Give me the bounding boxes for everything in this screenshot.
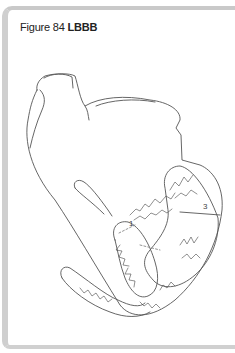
left-ventricle	[145, 166, 219, 287]
label-3: 3	[203, 202, 208, 211]
right-ventricle	[113, 222, 157, 297]
heart-conduction-diagram: 3 1	[0, 0, 235, 353]
heart-outline	[27, 74, 222, 315]
av-node	[74, 180, 112, 216]
label-1: 1	[129, 219, 134, 228]
